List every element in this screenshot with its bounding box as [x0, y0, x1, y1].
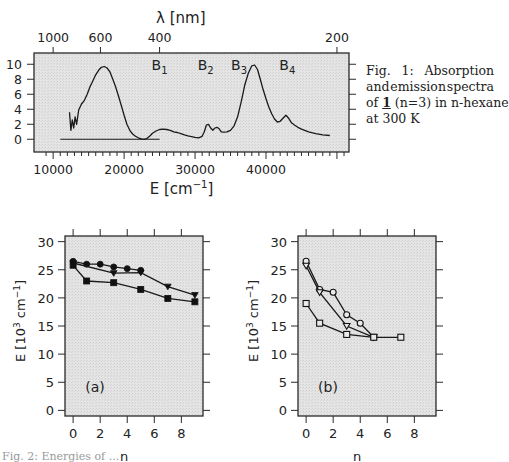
- square-marker: [371, 334, 377, 340]
- y-tick-label: 20: [37, 291, 54, 306]
- bracket: ]: [13, 280, 28, 285]
- caption-word: emission: [390, 79, 446, 95]
- subscript: 4: [289, 65, 295, 76]
- top-tick-label: 600: [89, 30, 113, 45]
- x-tick-label: 40000: [246, 162, 286, 177]
- superscript: −1: [245, 285, 255, 298]
- y-tick-label: 25: [37, 263, 54, 278]
- figure-1-spectrum: 10000200003000040000E [cm−1]024681010006…: [6, 9, 356, 198]
- square-marker: [344, 331, 350, 337]
- caption-text: of: [366, 95, 382, 110]
- y-tick-label: 5: [46, 375, 54, 390]
- circle-marker: [111, 264, 117, 270]
- subscript: 2: [207, 65, 213, 76]
- x-axis-label: E [cm−1]: [150, 179, 214, 198]
- y-tick-label: 0: [46, 403, 54, 418]
- square-marker: [317, 320, 323, 326]
- square-marker: [70, 262, 76, 268]
- x-tick-label: 0: [69, 426, 77, 441]
- caption-text: (n=3) in n-hexane: [391, 95, 509, 110]
- x-tick-label: 8: [177, 426, 185, 441]
- square-marker: [84, 278, 90, 284]
- x-tick-label: 2: [329, 426, 337, 441]
- top-tick-label: 1000: [37, 30, 69, 45]
- x-tick-label: 0: [302, 426, 310, 441]
- y-axis-label: E [103 cm−1]: [12, 280, 28, 362]
- x-tick-label: 10000: [33, 162, 73, 177]
- top-tick-label: 400: [148, 30, 172, 45]
- compound-number: 1: [382, 95, 391, 110]
- square-marker: [165, 295, 171, 301]
- top-axis-label: λ [nm]: [156, 9, 205, 27]
- circle-marker: [344, 312, 350, 318]
- subscript: 1: [161, 65, 167, 76]
- superscript: −1: [12, 285, 22, 298]
- unit: cm: [246, 298, 261, 322]
- unit: cm: [13, 298, 28, 322]
- top-tick-label: 200: [325, 30, 349, 45]
- y-tick-label: 20: [270, 291, 287, 306]
- square-marker: [111, 280, 117, 286]
- square-marker: [398, 334, 404, 340]
- y-tick-label: 8: [14, 72, 22, 87]
- y-tick-label: 15: [270, 319, 287, 334]
- x-tick-label: 6: [383, 426, 391, 441]
- y-tick-label: 5: [279, 375, 287, 390]
- y-tick-label: 10: [6, 57, 22, 72]
- y-tick-label: 6: [14, 87, 22, 102]
- panel-label: (b): [318, 379, 338, 395]
- x-tick-label: 6: [150, 426, 158, 441]
- x-axis-label: n: [353, 449, 361, 462]
- circle-marker: [357, 320, 363, 326]
- y-tick-label: 30: [270, 235, 287, 250]
- x-tick-label: 8: [410, 426, 418, 441]
- square-marker: [192, 299, 198, 305]
- figure-2a-panel: 02468051015202530nE [103 cm−1](a): [12, 229, 210, 462]
- x-axis-label: n: [120, 449, 128, 462]
- panel-label: (a): [85, 379, 105, 395]
- caption-word: spectra: [447, 79, 494, 95]
- y-tick-label: 0: [14, 132, 22, 147]
- x-tick-label: 4: [356, 426, 364, 441]
- y-tick-label: 25: [270, 263, 287, 278]
- caption-word: 1:: [401, 63, 413, 79]
- figure-2b-panel: 02468051015202530nE [103 cm−1](b): [245, 229, 443, 462]
- y-tick-label: 2: [14, 117, 22, 132]
- y-tick-label: 4: [14, 102, 22, 117]
- superscript: −1: [193, 179, 208, 190]
- circle-marker: [330, 289, 336, 295]
- bracket: ]: [207, 180, 213, 198]
- circle-marker: [97, 261, 103, 267]
- y-tick-label: 10: [37, 347, 54, 362]
- square-marker: [138, 286, 144, 292]
- square-marker: [303, 301, 309, 307]
- bracket: ]: [246, 280, 261, 285]
- y-tick-label: 15: [37, 319, 54, 334]
- x-tick-label: 4: [123, 426, 131, 441]
- caption-word: Fig.: [366, 63, 391, 79]
- y-tick-label: 30: [37, 235, 54, 250]
- caption-text: at 300 K: [366, 111, 496, 127]
- subscript: 3: [241, 65, 247, 76]
- y-axis-label: E [103 cm−1]: [245, 280, 261, 362]
- y-tick-label: 10: [270, 347, 287, 362]
- figure-1-caption: Fig.1:Absorption andemissionspectra of 1…: [366, 63, 496, 127]
- caption-word: Absorption: [424, 63, 494, 79]
- caption-word: and: [366, 79, 390, 95]
- circle-marker: [124, 266, 130, 272]
- y-tick-label: 0: [279, 403, 287, 418]
- x-tick-label: 20000: [104, 162, 144, 177]
- figure-2-caption-partial: Fig. 2: Energies of ...: [2, 449, 119, 462]
- x-tick-label: 30000: [175, 162, 215, 177]
- x-tick-label: 2: [96, 426, 104, 441]
